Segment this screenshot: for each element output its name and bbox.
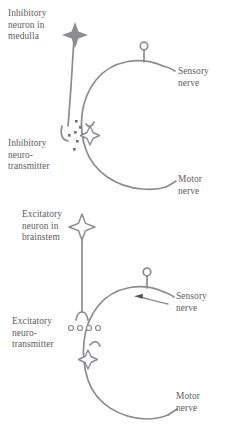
label-excitatory-neuron: Excitatory neuron in brainstem bbox=[22, 209, 90, 244]
reflex-arc-path-excitatory bbox=[83, 287, 168, 419]
label-motor-nerve-inhibitory: Motor nerve bbox=[178, 174, 228, 197]
label-motor-nerve-excitatory: Motor nerve bbox=[176, 391, 228, 414]
sensory-arrow-shaft-excitatory bbox=[140, 297, 168, 304]
reflex-arc-path-inhibitory bbox=[81, 61, 166, 190]
sensory-leader-inhibitory bbox=[163, 66, 175, 71]
panel-inhibitory: Inhibitory neuron in medulla Inhibitory … bbox=[0, 0, 229, 216]
excitatory-receptor-hook bbox=[90, 342, 100, 346]
inhibitory-neuron-axon bbox=[68, 38, 74, 126]
label-inhibitory-neuron: Inhibitory neuron in medulla bbox=[8, 8, 72, 43]
sensory-leader-excitatory bbox=[164, 292, 174, 297]
label-excitatory-neurotransmitter: Excitatory neuro- transmitter bbox=[12, 316, 82, 351]
label-sensory-nerve-excitatory: Sensory nerve bbox=[176, 291, 228, 314]
excitatory-receptor-star bbox=[79, 350, 98, 369]
sensory-arrow-head-excitatory bbox=[134, 294, 143, 299]
label-inhibitory-neurotransmitter: Inhibitory neuro- transmitter bbox=[8, 138, 74, 173]
arc-knob-circle-excitatory bbox=[143, 268, 151, 276]
motor-leader-inhibitory bbox=[166, 181, 176, 187]
figure-canvas: Inhibitory neuron in medulla Inhibitory … bbox=[0, 0, 229, 432]
arc-knob-circle-inhibitory bbox=[140, 42, 148, 50]
label-sensory-nerve-inhibitory: Sensory nerve bbox=[178, 66, 228, 89]
